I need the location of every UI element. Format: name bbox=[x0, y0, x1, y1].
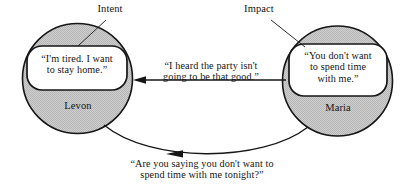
leader-line-impact bbox=[271, 20, 305, 47]
edge-label-maria-to-levon: “Are you saying you don't want to spend … bbox=[84, 158, 320, 181]
annotation-label-impact: Impact bbox=[233, 3, 285, 15]
edge-label-levon-to-maria: “I heard the party isn't going to be tha… bbox=[141, 60, 281, 83]
person-name-levon: Levon bbox=[42, 100, 114, 112]
annotation-label-intent: Intent bbox=[86, 3, 134, 15]
thought-text-maria: “You don't want to spend time with me.” bbox=[289, 50, 387, 84]
diagram-canvas: Intent Impact “I'm tired. I want to stay… bbox=[0, 0, 403, 190]
edge-curve-maria-to-levon bbox=[104, 125, 308, 154]
thought-text-levon: “I'm tired. I want to stay home.” bbox=[27, 53, 127, 76]
person-name-maria: Maria bbox=[302, 102, 374, 114]
